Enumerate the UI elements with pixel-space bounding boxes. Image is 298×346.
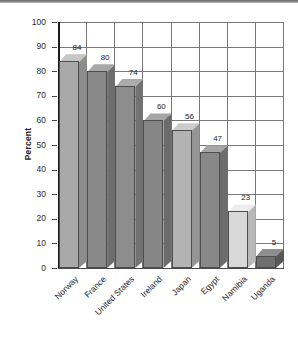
- y-axis-tick-label: 100: [20, 18, 46, 27]
- bar-edge: [200, 152, 220, 153]
- bar-uganda[interactable]: [256, 249, 283, 268]
- bar-egypt[interactable]: [200, 145, 227, 268]
- bar-value-label: 80: [95, 53, 115, 62]
- bar-edge: [172, 130, 192, 131]
- bar-side-face: [248, 204, 256, 268]
- bar-front-face: [172, 130, 192, 268]
- y-axis-tick-mark: [52, 243, 57, 244]
- bar-edge: [59, 61, 79, 62]
- bar-side-face: [79, 54, 87, 268]
- y-axis-tick-label: 0: [20, 264, 46, 273]
- y-axis-tick-mark: [52, 120, 57, 121]
- bar-edge: [256, 256, 276, 257]
- y-axis-tick-label: 20: [20, 214, 46, 223]
- y-axis-tick-mark: [52, 47, 57, 48]
- y-axis-tick-label: 70: [20, 91, 46, 100]
- bar-side-face: [135, 79, 143, 268]
- bar-ireland[interactable]: [143, 113, 170, 268]
- y-axis-tick-mark: [52, 170, 57, 171]
- y-axis-tick-mark: [52, 145, 57, 146]
- y-axis-tick-mark: [52, 268, 57, 269]
- bar-side-face: [220, 145, 228, 268]
- y-axis-tick-label: 90: [20, 42, 46, 51]
- bar-namibia[interactable]: [228, 204, 255, 268]
- y-axis-tick-label: 10: [20, 239, 46, 248]
- bar-front-face: [228, 211, 248, 268]
- bar-norway[interactable]: [59, 54, 86, 268]
- bar-side-face: [192, 123, 200, 268]
- bar-japan[interactable]: [172, 123, 199, 268]
- y-axis-tick-label: 60: [20, 116, 46, 125]
- bar-side-face: [163, 113, 171, 268]
- bar-edge: [115, 86, 135, 87]
- bar-value-label: 60: [151, 102, 171, 111]
- y-axis-tick-label: 40: [20, 165, 46, 174]
- bar-value-label: 47: [208, 134, 228, 143]
- bar-front-face: [200, 152, 220, 268]
- bar-front-face: [115, 86, 135, 268]
- x-axis-line: [58, 268, 284, 269]
- bar-front-face: [59, 61, 79, 268]
- y-axis-tick-mark: [52, 22, 57, 23]
- bar-chart: Percent 1009080706050403020100 848074605…: [0, 0, 298, 346]
- bar-value-label: 56: [180, 112, 200, 121]
- bar-front-face: [256, 256, 276, 268]
- y-axis-tick-mark: [52, 219, 57, 220]
- y-axis-tick-label: 30: [20, 190, 46, 199]
- bar-edge: [87, 71, 107, 72]
- bar-value-label: 74: [123, 68, 143, 77]
- y-axis-tick-label: 50: [20, 141, 46, 150]
- bar-edge: [143, 120, 163, 121]
- y-axis-tick-mark: [52, 194, 57, 195]
- bar-front-face: [87, 71, 107, 268]
- bar-france[interactable]: [87, 64, 114, 268]
- bar-value-label: 23: [236, 193, 256, 202]
- bar-side-face: [107, 64, 115, 268]
- y-axis-tick-mark: [52, 71, 57, 72]
- bar-edge: [228, 211, 248, 212]
- y-axis-tick-mark: [52, 96, 57, 97]
- bar-value-label: 84: [67, 43, 87, 52]
- y-axis-tick-label: 80: [20, 67, 46, 76]
- bar-value-label: 5: [264, 238, 284, 247]
- bar-united-states[interactable]: [115, 79, 142, 268]
- bar-front-face: [143, 120, 163, 268]
- gridline-vertical: [283, 22, 284, 268]
